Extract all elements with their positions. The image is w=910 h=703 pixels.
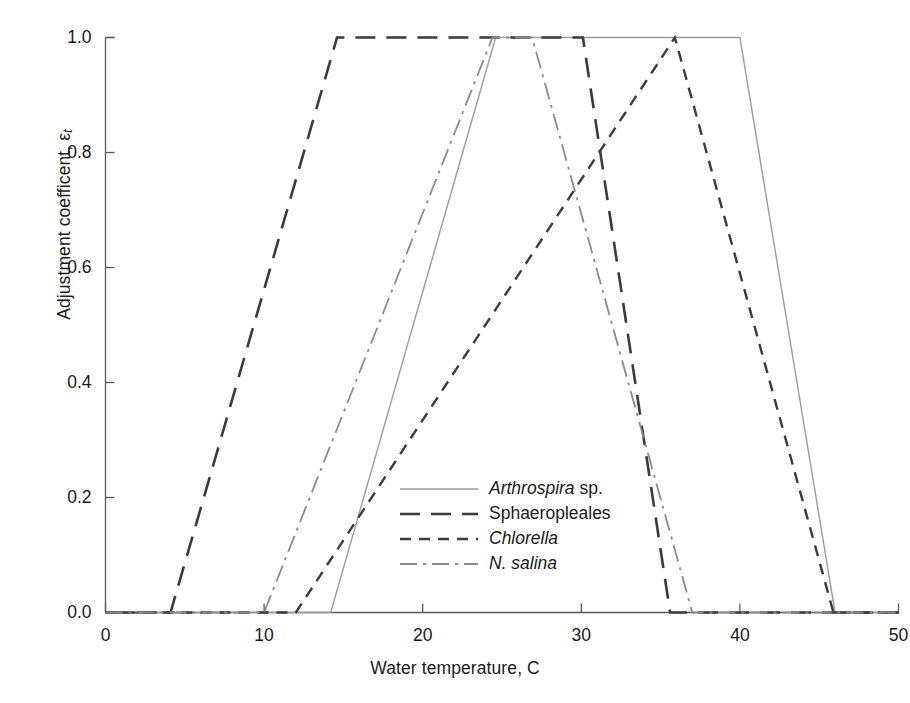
x-tick-label: 0	[76, 625, 136, 646]
y-tick-label: 0.6	[32, 257, 92, 278]
x-axis-label: Water temperature, C	[0, 658, 910, 679]
y-tick-label: 0.2	[32, 487, 92, 508]
x-tick-label: 50	[869, 625, 910, 646]
legend-label-roman: Sphaeropleales	[489, 503, 611, 523]
legend-label-0: Arthrospira sp.	[489, 478, 603, 499]
legend-label-2: Chlorella	[489, 528, 558, 549]
legend-label-italic: N. salina	[489, 553, 557, 573]
x-tick-label: 40	[710, 625, 770, 646]
y-axis-label-subscript: t	[60, 129, 75, 133]
y-tick-label: 0.4	[32, 372, 92, 393]
x-tick-label: 10	[234, 625, 294, 646]
legend-label-1: Sphaeropleales	[489, 503, 611, 524]
legend-label-italic: Chlorella	[489, 528, 558, 548]
legend-item-0: Arthrospira sp.	[400, 476, 611, 501]
x-tick-label: 30	[551, 625, 611, 646]
legend-line-sample-0	[400, 482, 478, 496]
x-tick-label: 20	[393, 625, 453, 646]
legend: Arthrospira sp.SphaeroplealesChlorellaN.…	[400, 476, 611, 576]
legend-line-sample-3	[400, 557, 478, 571]
legend-label-italic: Arthrospira	[489, 478, 575, 498]
figure: Adjustment coefficent, εt Water temperat…	[0, 0, 910, 703]
y-tick-label: 0.0	[32, 602, 92, 623]
legend-line-sample-1	[400, 507, 478, 521]
legend-line-sample-2	[400, 532, 478, 546]
legend-label-roman: sp.	[575, 478, 603, 498]
chart-plot-area	[0, 0, 910, 703]
y-tick-label: 0.8	[32, 142, 92, 163]
y-tick-label: 1.0	[32, 27, 92, 48]
legend-item-3: N. salina	[400, 551, 611, 576]
legend-item-2: Chlorella	[400, 526, 611, 551]
legend-item-1: Sphaeropleales	[400, 501, 611, 526]
legend-label-3: N. salina	[489, 553, 557, 574]
y-axis-label: Adjustment coefficent, εt	[54, 75, 75, 375]
